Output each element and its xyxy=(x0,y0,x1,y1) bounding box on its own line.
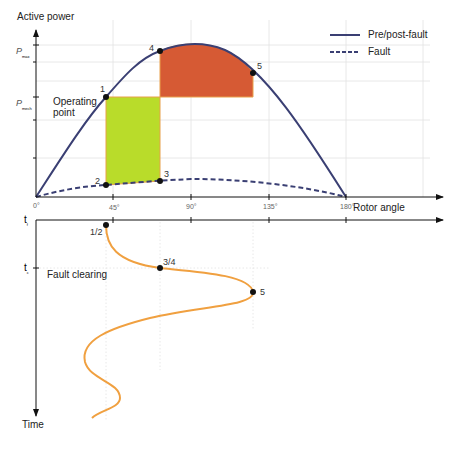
fault-clearing-label: Fault clearing xyxy=(47,270,107,280)
pmech-tick-label: Pmech xyxy=(16,92,32,111)
rotor-swing-curve xyxy=(84,225,253,418)
point-4 xyxy=(157,48,163,54)
y-axis-label: Active power xyxy=(17,12,74,22)
x-axis-label: Rotor angle xyxy=(353,203,405,213)
point-1 xyxy=(103,94,109,100)
point-t5-label: 5 xyxy=(260,288,265,297)
operating-point-label-1: Operating xyxy=(53,97,97,107)
x-tick-0: 0° xyxy=(33,202,40,209)
time-axis-label: Time xyxy=(22,420,44,430)
operating-point-label-2: point xyxy=(53,108,75,118)
point-1-label: 1 xyxy=(100,85,105,94)
point-5 xyxy=(250,70,256,76)
x-tick-180: 180° xyxy=(340,203,354,210)
point-3 xyxy=(157,178,163,184)
point-t34-label: 3/4 xyxy=(163,258,176,267)
acceleration-area xyxy=(106,97,160,185)
point-t12-label: 1/2 xyxy=(90,228,103,237)
point-3-label: 3 xyxy=(164,170,169,179)
point-t12 xyxy=(103,222,109,228)
x-tick-45: 45° xyxy=(109,204,120,211)
point-2 xyxy=(103,182,109,188)
tc-tick-label: tc xyxy=(24,262,29,275)
point-2-label: 2 xyxy=(95,177,100,186)
legend-fault-label: Fault xyxy=(368,47,390,57)
x-tick-135: 135° xyxy=(263,203,277,210)
deceleration-area xyxy=(160,44,253,97)
tf-tick-label: tf xyxy=(24,214,28,227)
x-tick-90: 90° xyxy=(186,203,197,210)
legend-prepost-label: Pre/post-fault xyxy=(368,30,427,40)
time-grid-lines xyxy=(36,222,270,420)
pmax-tick-label: Pmax xyxy=(16,40,30,59)
point-5-label: 5 xyxy=(257,62,262,71)
point-4-label: 4 xyxy=(149,44,154,53)
point-t5 xyxy=(250,289,256,295)
equal-area-diagram xyxy=(0,0,463,449)
